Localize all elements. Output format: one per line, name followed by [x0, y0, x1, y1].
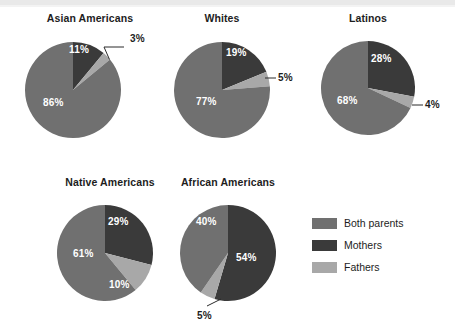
pie-asian-americans — [23, 40, 123, 140]
chart-title-african-americans: African Americans — [128, 176, 328, 188]
slice-label-latinos-mothers: 28% — [371, 53, 392, 64]
callout-label-african-americans: 5% — [197, 310, 212, 321]
slice-label-whites-mothers: 19% — [226, 47, 247, 58]
slice-label-latinos-both-parents: 68% — [337, 95, 358, 106]
callout-label-latinos: 4% — [425, 99, 440, 110]
legend-item-both-parents: Both parents — [312, 212, 452, 234]
pie-african-americans — [178, 203, 278, 303]
pie-slice-latinos-mothers — [368, 41, 415, 97]
legend-item-mothers: Mothers — [312, 234, 452, 256]
legend-label-both-parents: Both parents — [344, 217, 404, 229]
slice-label-asian-americans-both-parents: 86% — [43, 97, 64, 108]
slice-label-whites-both-parents: 77% — [196, 96, 217, 107]
pie-native-americans — [55, 203, 155, 303]
legend-label-fathers: Fathers — [344, 261, 380, 273]
legend-label-mothers: Mothers — [344, 239, 382, 251]
callout-label-whites: 5% — [278, 72, 293, 83]
slice-label-african-americans-both-parents: 40% — [196, 216, 217, 227]
legend-swatch-mothers — [312, 240, 337, 251]
chart-legend: Both parentsMothersFathers — [312, 212, 452, 278]
slice-label-native-americans-fathers: 10% — [109, 279, 130, 290]
callout-label-asian-americans: 3% — [130, 33, 145, 44]
scan-artifact-band-secondary — [0, 5, 455, 7]
slice-label-african-americans-mothers: 54% — [236, 252, 257, 263]
slice-label-native-americans-both-parents: 61% — [73, 248, 94, 259]
pie-whites — [172, 40, 272, 140]
legend-swatch-fathers — [312, 262, 337, 273]
pie-latinos — [319, 39, 417, 137]
legend-item-fathers: Fathers — [312, 256, 452, 278]
slice-label-native-americans-mothers: 29% — [108, 216, 129, 227]
pie-chart-figure: Asian Americans11%86%3%Whites19%77%5%Lat… — [0, 0, 455, 325]
chart-title-latinos: Latinos — [268, 12, 455, 24]
slice-label-asian-americans-mothers: 11% — [69, 44, 89, 55]
legend-swatch-both-parents — [312, 218, 337, 229]
